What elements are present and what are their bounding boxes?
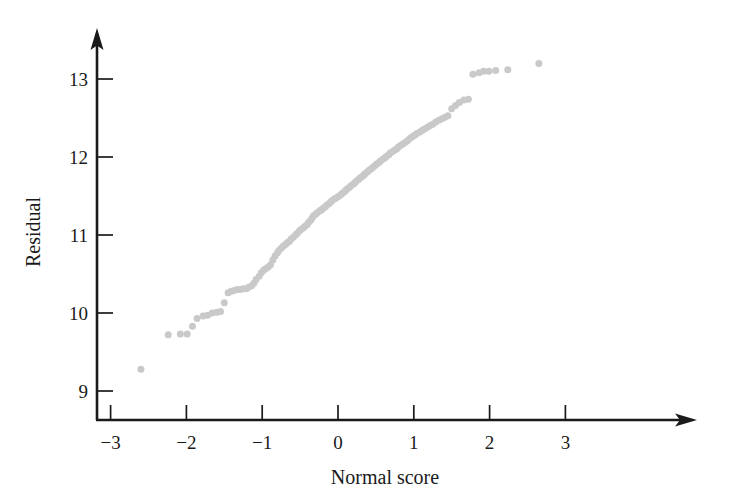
data-point bbox=[535, 60, 542, 67]
data-point bbox=[504, 66, 511, 73]
data-point bbox=[469, 71, 476, 78]
x-tick-label: 3 bbox=[561, 432, 571, 453]
x-axis-ticks bbox=[111, 405, 566, 420]
data-point bbox=[217, 308, 224, 315]
data-point bbox=[165, 331, 172, 338]
x-axis: −3−2−10123 bbox=[96, 405, 697, 453]
x-axis-tick-labels: −3−2−10123 bbox=[100, 432, 570, 453]
y-axis-title: Residual bbox=[22, 197, 44, 267]
x-tick-label: −1 bbox=[252, 432, 272, 453]
y-tick-label: 12 bbox=[69, 147, 88, 168]
data-point bbox=[485, 68, 492, 75]
plot-data-layer bbox=[137, 60, 542, 373]
data-point bbox=[177, 331, 184, 338]
data-point bbox=[189, 323, 196, 330]
x-axis-title: Normal score bbox=[331, 466, 439, 488]
y-tick-label: 10 bbox=[69, 303, 88, 324]
x-tick-label: 2 bbox=[485, 432, 495, 453]
y-tick-label: 9 bbox=[79, 381, 89, 402]
data-point bbox=[492, 67, 499, 74]
y-axis-tick-labels: 910111213 bbox=[69, 69, 88, 402]
x-tick-label: 1 bbox=[409, 432, 419, 453]
chart-page: 910111213 −3−2−10123 Normal score Residu… bbox=[0, 0, 735, 498]
y-tick-label: 13 bbox=[69, 69, 88, 90]
data-point bbox=[444, 112, 451, 119]
x-tick-label: −3 bbox=[100, 432, 120, 453]
data-point bbox=[137, 366, 144, 373]
data-point bbox=[184, 331, 191, 338]
data-point bbox=[194, 315, 201, 322]
y-tick-label: 11 bbox=[70, 225, 88, 246]
x-tick-label: 0 bbox=[333, 432, 343, 453]
y-axis: 910111213 bbox=[69, 28, 113, 420]
y-axis-ticks bbox=[97, 79, 113, 391]
x-tick-label: −2 bbox=[176, 432, 196, 453]
data-point bbox=[465, 96, 472, 103]
qq-plot-figure: 910111213 −3−2−10123 Normal score Residu… bbox=[0, 0, 735, 498]
data-point bbox=[221, 299, 228, 306]
